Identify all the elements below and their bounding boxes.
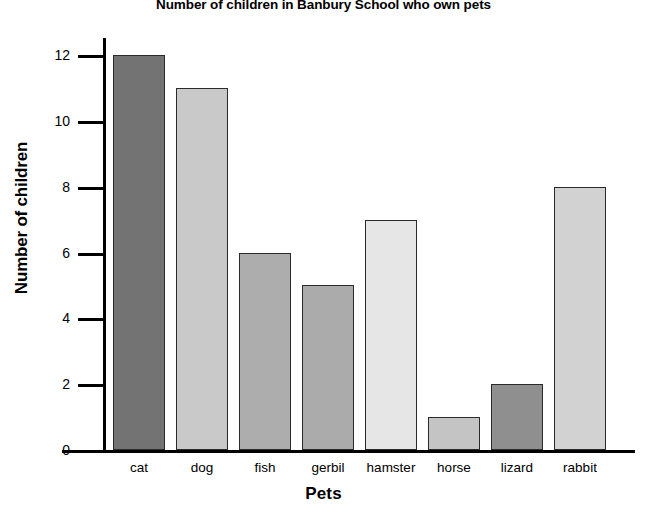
y-tick-mark-0 <box>78 450 106 453</box>
bar-dog[interactable] <box>176 88 228 450</box>
bar-fish[interactable] <box>239 253 291 451</box>
y-tick-mark-2 <box>78 384 106 387</box>
y-tick-label-2: 2 <box>30 377 70 391</box>
bar-lizard[interactable] <box>491 384 543 450</box>
y-tick-mark-8 <box>78 187 106 190</box>
y-tick-label-0: 0 <box>30 443 70 457</box>
y-tick-label-4: 4 <box>30 311 70 325</box>
bar-horse[interactable] <box>428 417 480 450</box>
y-tick-label-8: 8 <box>30 180 70 194</box>
x-tick-label-rabbit: rabbit <box>540 461 620 475</box>
y-tick-label-6: 6 <box>30 246 70 260</box>
y-tick-label-10: 10 <box>30 114 70 128</box>
bar-chart: Number of children in Banbury School who… <box>0 0 647 516</box>
bar-hamster[interactable] <box>365 220 417 450</box>
y-tick-mark-12 <box>78 55 106 58</box>
bar-rabbit[interactable] <box>554 187 606 450</box>
y-tick-mark-4 <box>78 318 106 321</box>
bar-cat[interactable] <box>113 55 165 450</box>
x-axis-line <box>62 450 635 453</box>
bar-gerbil[interactable] <box>302 285 354 450</box>
y-axis-line <box>103 38 106 452</box>
plot-area: 0 2 4 6 8 10 12 catdogfishgerbilhamsterh… <box>0 0 647 516</box>
y-tick-label-12: 12 <box>30 48 70 62</box>
y-tick-mark-6 <box>78 253 106 256</box>
y-tick-mark-10 <box>78 121 106 124</box>
x-axis-title: Pets <box>0 484 647 504</box>
